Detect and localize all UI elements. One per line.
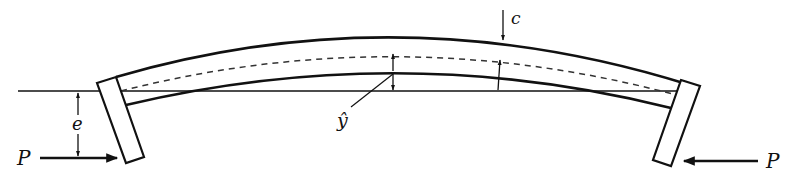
beam-column-diagram: P P e c ŷ — [0, 0, 789, 180]
right-end-plate — [653, 80, 700, 166]
right-deflection-arrow — [498, 60, 500, 90]
left-load-label: P — [16, 146, 31, 170]
left-end-plate — [97, 77, 144, 163]
deflection-label: ŷ — [336, 109, 348, 131]
half-depth-label: c — [511, 8, 521, 28]
eccentricity-label: e — [72, 113, 83, 134]
right-load-label: P — [765, 149, 780, 173]
